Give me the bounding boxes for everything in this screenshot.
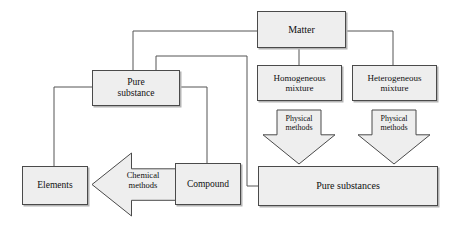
node-heterogeneous[interactable]: Heterogeneous mixture	[352, 65, 437, 101]
arrow-shape-chemical_methods	[92, 153, 176, 216]
connector-pure-substance-to-compound	[180, 87, 207, 163]
node-label-heterogeneous: Heterogeneous mixture	[368, 73, 422, 93]
connector-pure-substance-to-elements	[54, 87, 92, 166]
node-elements[interactable]: Elements	[22, 166, 88, 205]
node-label-pure_substances: Pure substances	[316, 180, 380, 191]
node-pure_substance[interactable]: Pure substance	[92, 70, 180, 106]
arrow-chemical_methods[interactable]	[92, 153, 176, 216]
arrow-physical_methods_left[interactable]	[263, 110, 335, 164]
arrow-shape-physical_methods_right	[358, 110, 430, 164]
arrow-physical_methods_right[interactable]	[358, 110, 430, 164]
node-compound[interactable]: Compound	[175, 163, 241, 205]
node-label-compound: Compound	[187, 179, 229, 190]
connector-matter-to-heterogeneous	[346, 31, 393, 65]
node-label-homogeneous: Homogeneous mixture	[274, 73, 326, 93]
matter-classification-diagram: MatterPure substanceHomogeneous mixtureH…	[0, 0, 462, 229]
node-label-matter: Matter	[288, 24, 315, 35]
node-matter[interactable]: Matter	[257, 11, 346, 48]
arrow-shape-physical_methods_left	[263, 110, 335, 164]
node-pure_substances[interactable]: Pure substances	[258, 166, 438, 206]
node-label-elements: Elements	[37, 180, 72, 191]
node-homogeneous[interactable]: Homogeneous mixture	[257, 65, 342, 101]
connector-matter-to-pure-substance	[133, 31, 257, 70]
node-label-pure_substance: Pure substance	[118, 77, 155, 98]
